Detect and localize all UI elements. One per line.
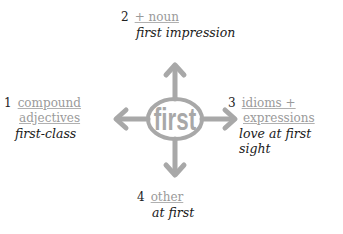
branch-link-other[interactable]: other: [151, 190, 184, 204]
branch-example: first-class: [4, 126, 81, 141]
branch-number: 4: [137, 190, 145, 204]
branch-number: 2: [121, 10, 129, 24]
branch-example: at first: [137, 205, 194, 220]
branch-link-noun[interactable]: + noun: [135, 10, 179, 24]
branch-link-idioms[interactable]: idioms +: [242, 96, 296, 110]
branch-link-expressions[interactable]: expressions: [243, 111, 315, 125]
branch-other: 4other at first: [137, 190, 194, 220]
branch-link-adjectives[interactable]: adjectives: [19, 111, 80, 125]
branch-compound-adjectives: 1compound adjectives first-class: [4, 96, 81, 141]
branch-number: 3: [228, 96, 236, 110]
branch-link-compound[interactable]: compound: [18, 96, 81, 110]
center-word: first: [154, 101, 196, 137]
branch-idioms-expressions: 3idioms + expressions love at first sigh…: [228, 96, 343, 156]
branch-noun: 2+ noun first impression: [121, 10, 235, 40]
branch-number: 1: [4, 96, 12, 110]
branch-example: first impression: [121, 25, 235, 40]
branch-example: love at first sight: [228, 126, 343, 156]
